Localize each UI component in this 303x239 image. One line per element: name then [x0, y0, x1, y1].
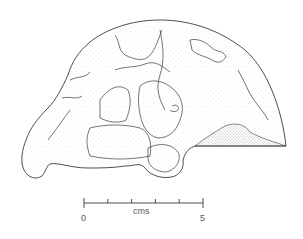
cranium-outline: [22, 20, 286, 178]
skull-illustration: [0, 0, 303, 190]
scale-start-label: 0: [81, 213, 86, 223]
scale-bar: [0, 190, 303, 239]
scale-unit-label: cms: [133, 206, 150, 216]
scale-end-label: 5: [200, 213, 205, 223]
